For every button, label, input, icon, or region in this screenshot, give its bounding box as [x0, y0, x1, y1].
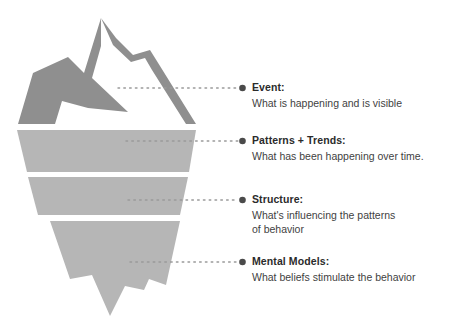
callout-event-body-line-1: What is happening and is visible: [252, 96, 402, 110]
callout-structure: Structure: What's influencing the patter…: [252, 193, 395, 236]
callout-structure-body-line-1: What's influencing the patterns: [252, 208, 395, 222]
callout-structure-body-line-2: of behavior: [252, 222, 395, 236]
iceberg-band-2: [28, 177, 188, 215]
bullet-dot-structure: [239, 197, 246, 204]
iceberg-diagram: Event: What is happening and is visible …: [0, 0, 468, 331]
callout-event: Event: What is happening and is visible: [252, 81, 402, 110]
bullet-dot-mental-models: [239, 259, 246, 266]
callout-patterns-trends-body-line-1: What has been happening over time.: [252, 149, 424, 163]
callout-patterns-trends-heading: Patterns + Trends:: [252, 134, 424, 147]
bullet-dot-patterns: [239, 138, 246, 145]
iceberg-band-3: [50, 221, 180, 316]
bullet-dot-event: [239, 85, 246, 92]
callout-structure-heading: Structure:: [252, 193, 395, 206]
callout-patterns-trends: Patterns + Trends: What has been happeni…: [252, 134, 424, 163]
callout-mental-models-heading: Mental Models:: [252, 255, 415, 268]
callout-event-heading: Event:: [252, 81, 402, 94]
callout-mental-models: Mental Models: What beliefs stimulate th…: [252, 255, 415, 284]
iceberg-band-1: [17, 130, 196, 172]
callout-mental-models-body-line-1: What beliefs stimulate the behavior: [252, 270, 415, 284]
